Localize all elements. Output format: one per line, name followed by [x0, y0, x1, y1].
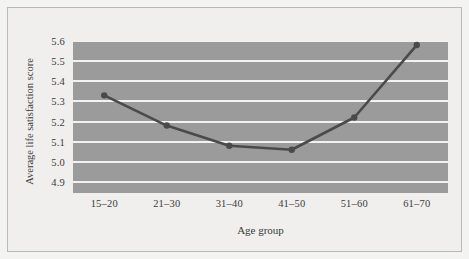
y-axis-tick-label: 5.5 [51, 56, 65, 67]
x-axis-tick-labels: 15–2021–3031–4041–5051–6061–70 [73, 198, 448, 214]
y-axis-tick-label: 5.6 [51, 36, 65, 47]
data-point-marker [226, 142, 232, 148]
series-line [104, 45, 417, 150]
y-axis-tick-label: 5.4 [51, 76, 65, 87]
line-series [73, 41, 448, 193]
data-point-marker [101, 92, 107, 98]
x-axis-tick-label: 51–60 [341, 198, 368, 209]
x-axis-tick-label: 31–40 [216, 198, 243, 209]
figure: Average life satisfaction score 5.65.55.… [0, 0, 469, 259]
x-axis-title: Age group [73, 224, 448, 236]
x-axis-tick-label: 61–70 [403, 198, 430, 209]
y-axis-tick-label: 4.9 [51, 176, 65, 187]
x-axis-tick-label: 21–30 [153, 198, 180, 209]
data-point-marker [351, 114, 357, 120]
plot-area [73, 41, 448, 193]
y-axis-tick-label: 5.3 [51, 96, 65, 107]
data-point-marker [289, 147, 295, 153]
x-axis-tick-label: 15–20 [91, 198, 118, 209]
x-axis-tick-label: 41–50 [278, 198, 305, 209]
data-point-marker [414, 42, 420, 48]
data-point-marker [164, 122, 170, 128]
y-axis-tick-label: 5.0 [51, 156, 65, 167]
y-axis-tick-label: 5.2 [51, 116, 65, 127]
figure-frame: Average life satisfaction score 5.65.55.… [7, 7, 462, 252]
y-axis-tick-label: 5.1 [51, 136, 65, 147]
y-axis-tick-labels: 5.65.55.45.35.25.15.04.9 [8, 41, 69, 193]
